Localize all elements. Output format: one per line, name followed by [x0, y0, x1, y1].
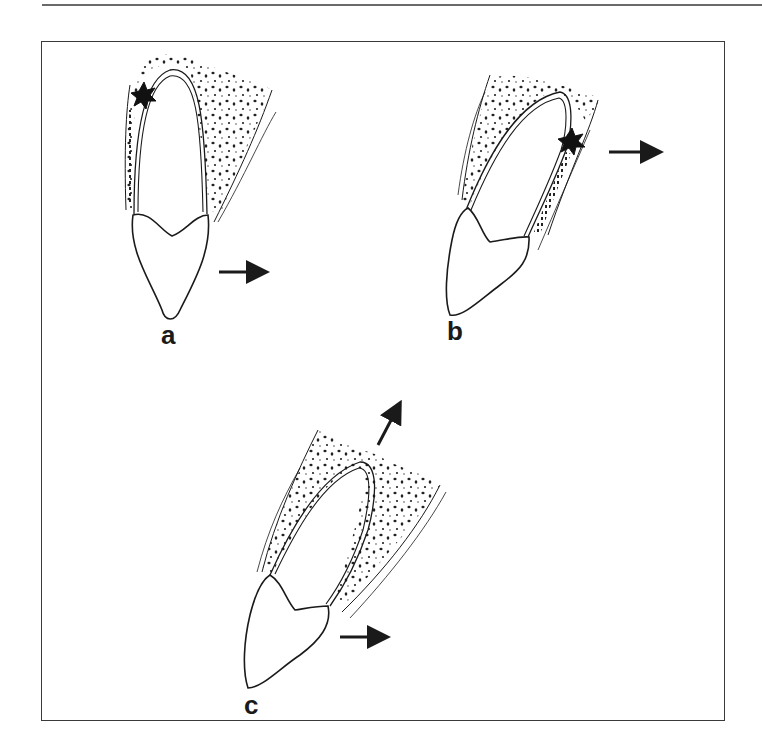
alveolar-bone-c: [262, 430, 440, 605]
alveolar-bone-b: [462, 76, 600, 205]
tooth-movement-diagram: [0, 0, 762, 752]
panel-label-a: a: [161, 322, 175, 348]
arrow-up-c: [378, 405, 399, 445]
crown-c: [244, 575, 328, 688]
panel-b: [446, 75, 658, 315]
panel-c: [244, 405, 446, 688]
crown-b: [446, 208, 529, 315]
panel-label-b: b: [447, 318, 463, 344]
panel-a: [125, 54, 276, 319]
panel-label-c: c: [244, 692, 258, 718]
crown-a: [132, 214, 208, 319]
